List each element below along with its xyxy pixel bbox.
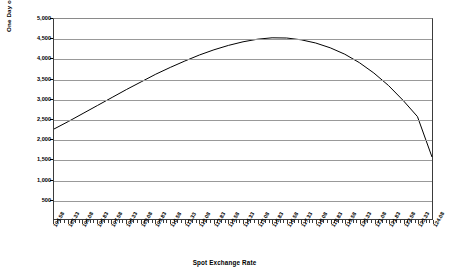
y-axis-tick-mark bbox=[50, 200, 53, 201]
y-axis-tick-mark bbox=[50, 79, 53, 80]
y-axis-tick-mark bbox=[50, 159, 53, 160]
y-axis-tick-mark bbox=[50, 139, 53, 140]
y-axis-tick-mark bbox=[50, 99, 53, 100]
y-axis-tick-mark bbox=[50, 38, 53, 39]
x-axis-tick-labels: 104.58105.33106.08106.83107.58108.33109.… bbox=[0, 0, 449, 275]
time-decay-chart: One Day of Time Decay 5001,0001,5002,000… bbox=[0, 0, 449, 275]
x-axis-title: Spot Exchange Rate bbox=[0, 259, 449, 266]
y-axis-tick-mark bbox=[50, 119, 53, 120]
y-axis-tick-mark bbox=[50, 180, 53, 181]
y-axis-tick-mark bbox=[50, 18, 53, 19]
y-axis-tick-mark bbox=[50, 58, 53, 59]
